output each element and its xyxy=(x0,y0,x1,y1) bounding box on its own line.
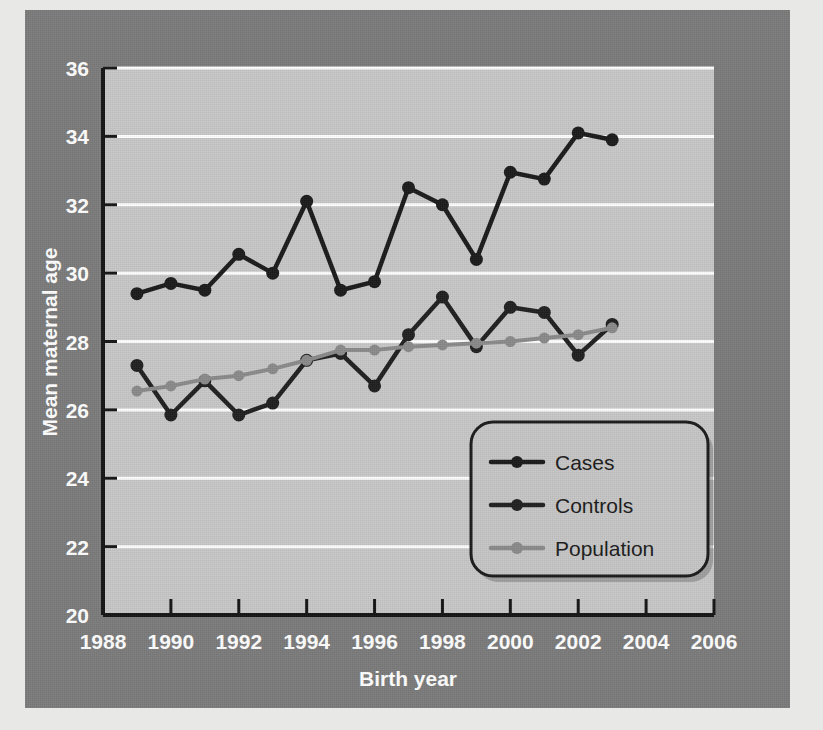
legend-item-label: Controls xyxy=(555,494,633,517)
legend-item-label: Cases xyxy=(555,451,615,474)
x-tick-label: 1996 xyxy=(351,630,398,653)
data-point xyxy=(437,339,448,350)
x-tick-label: 1988 xyxy=(80,630,127,653)
x-tick-label: 2000 xyxy=(487,630,534,653)
y-axis-title: Mean maternal age xyxy=(38,247,61,436)
x-tick-label: 1992 xyxy=(215,630,262,653)
legend-swatch-marker xyxy=(511,542,523,554)
data-point xyxy=(505,336,516,347)
data-point xyxy=(368,275,381,288)
figure-panel: 1988199019921994199619982000200220042006… xyxy=(25,10,790,708)
data-point xyxy=(471,338,482,349)
legend-swatch-marker xyxy=(511,456,523,468)
data-point xyxy=(572,349,585,362)
legend-item-label: Population xyxy=(555,537,654,560)
data-point xyxy=(436,198,449,211)
legend-swatch-marker xyxy=(511,499,523,511)
data-point xyxy=(130,287,143,300)
data-point xyxy=(538,173,551,186)
y-tick-label: 32 xyxy=(66,194,89,217)
x-tick-label: 2006 xyxy=(691,630,738,653)
data-point xyxy=(130,359,143,372)
x-tick-label: 2004 xyxy=(623,630,670,653)
chart-legend[interactable]: CasesControlsPopulation xyxy=(471,422,713,582)
x-tick-label: 2002 xyxy=(555,630,602,653)
line-chart: 1988199019921994199619982000200220042006… xyxy=(25,10,790,708)
x-tick-label: 1994 xyxy=(283,630,330,653)
data-point xyxy=(233,370,244,381)
data-point xyxy=(131,386,142,397)
y-tick-label: 20 xyxy=(66,604,89,627)
data-point xyxy=(164,277,177,290)
data-point xyxy=(198,284,211,297)
y-tick-label: 26 xyxy=(66,399,89,422)
y-tick-label: 22 xyxy=(66,536,89,559)
data-point xyxy=(403,341,414,352)
data-point xyxy=(504,301,517,314)
data-point xyxy=(266,267,279,280)
data-point xyxy=(607,322,618,333)
y-tick-label: 28 xyxy=(66,331,90,354)
data-point xyxy=(539,333,550,344)
data-point xyxy=(335,345,346,356)
data-point xyxy=(368,379,381,392)
y-tick-label: 30 xyxy=(66,262,89,285)
data-point xyxy=(369,345,380,356)
data-point xyxy=(199,374,210,385)
data-point xyxy=(572,126,585,139)
data-point xyxy=(402,328,415,341)
y-tick-label: 24 xyxy=(66,467,90,490)
data-point xyxy=(606,133,619,146)
y-tick-label: 34 xyxy=(66,125,90,148)
y-tick-label: 36 xyxy=(66,57,89,80)
data-point xyxy=(504,166,517,179)
data-point xyxy=(232,248,245,261)
data-point xyxy=(164,409,177,422)
data-point xyxy=(301,355,312,366)
data-point xyxy=(334,284,347,297)
data-point xyxy=(573,329,584,340)
data-point xyxy=(538,306,551,319)
data-point xyxy=(232,409,245,422)
data-point xyxy=(267,363,278,374)
data-point xyxy=(470,253,483,266)
data-point xyxy=(300,195,313,208)
x-axis-tick-labels: 1988199019921994199619982000200220042006 xyxy=(80,630,738,653)
y-axis-tick-labels: 202224262830323436 xyxy=(66,57,90,627)
data-point xyxy=(436,291,449,304)
data-point xyxy=(402,181,415,194)
data-point xyxy=(266,397,279,410)
data-point xyxy=(165,380,176,391)
x-tick-label: 1990 xyxy=(148,630,195,653)
x-tick-label: 1998 xyxy=(419,630,466,653)
x-axis-title: Birth year xyxy=(359,667,457,690)
